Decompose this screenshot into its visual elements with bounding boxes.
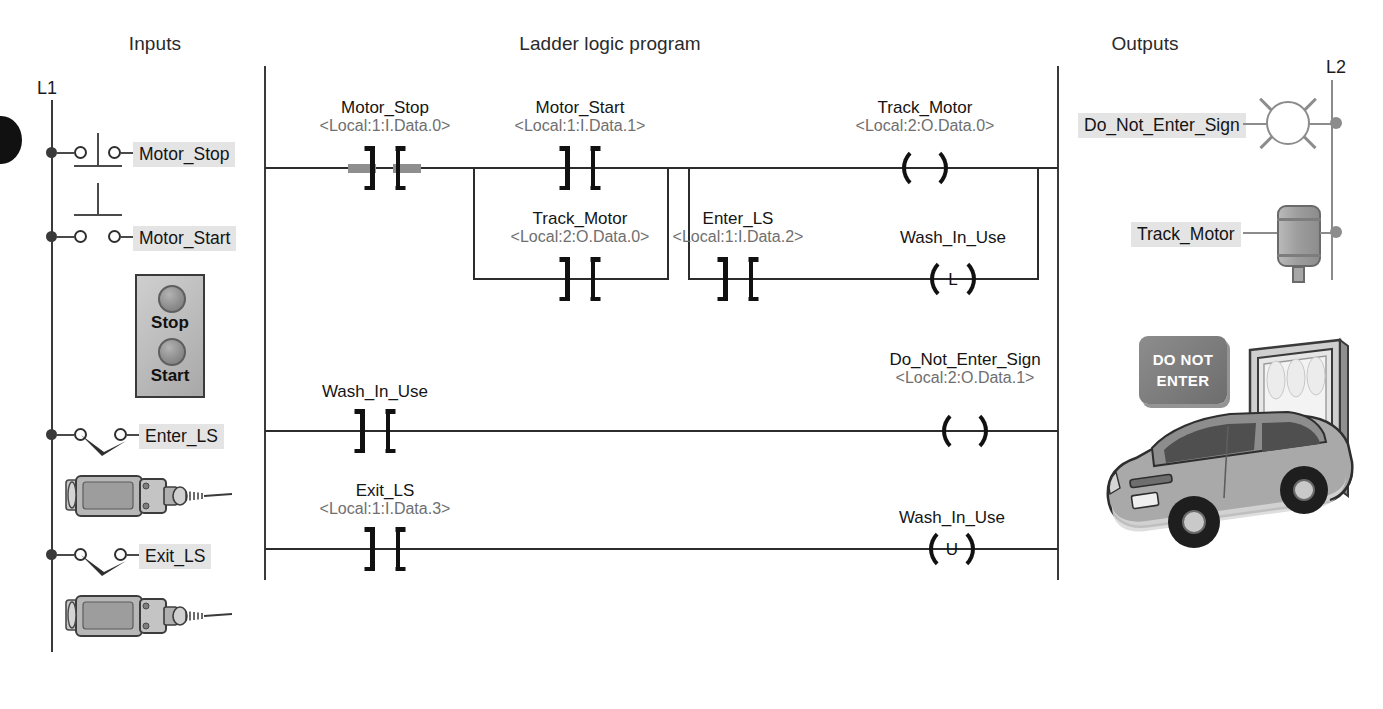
rung1-wash-in-use-contact[interactable]	[360, 409, 390, 453]
motor-shaft	[1292, 266, 1305, 283]
motor-start-lead-right	[121, 236, 133, 238]
outputs-heading: Outputs	[1085, 33, 1205, 55]
input-tag-exit-ls: Exit_LS	[139, 544, 211, 569]
lamp-ray-4	[1303, 136, 1316, 149]
exit-ls-device-photo	[58, 592, 233, 644]
do-not-enter-sign: DO NOT ENTER	[1139, 336, 1227, 404]
l1-rail-label: L1	[37, 78, 57, 99]
contact-bar-left	[360, 409, 365, 453]
coil-arc-right	[925, 145, 948, 191]
ladder-heading: Ladder logic program	[480, 33, 740, 55]
rung0-enter-ls-address: <Local:1:I.Data.2>	[648, 228, 828, 246]
contact-hook-bottom-left	[560, 297, 570, 302]
rung2-exit-ls-contact[interactable]	[370, 527, 400, 571]
start-pushbutton[interactable]	[158, 338, 186, 366]
ladder-logic-figure: Inputs Ladder logic program Outputs L1 M…	[0, 0, 1383, 709]
ladder-right-rail	[1057, 66, 1059, 580]
motor-stop-terminal-left	[74, 146, 87, 159]
branch1-left-leg	[473, 167, 475, 279]
motor-start-lead-left	[56, 236, 74, 238]
rung0-track-motor-coil[interactable]	[902, 145, 948, 191]
contact-hook-bottom-left	[718, 297, 728, 302]
motor-stop-lead-left	[56, 152, 74, 154]
lamp-ray-1	[1259, 98, 1272, 111]
rung0-track-motor-coil-name: Track_Motor	[825, 98, 1025, 118]
enter-ls-device-photo	[58, 472, 233, 524]
exit-ls-lead-left	[56, 554, 74, 556]
branch2-right-leg	[1037, 167, 1039, 279]
lamp-ray-2	[1303, 98, 1316, 111]
coil-glyph: U	[929, 541, 975, 558]
l2-rail-label: L2	[1326, 57, 1346, 78]
contact-bar-right	[396, 146, 401, 190]
rung0-track-motor-branch-name: Track_Motor	[490, 209, 670, 229]
input-tag-motor-start: Motor_Start	[133, 226, 236, 251]
stop-pushbutton[interactable]	[158, 285, 186, 313]
rung2-wash-in-use-unlatch-coil[interactable]: U	[929, 526, 975, 572]
contact-hook-bottom-right	[749, 297, 759, 302]
l2-node-do-not-enter-sign	[1330, 117, 1342, 129]
contact-hook-top-right	[396, 527, 406, 532]
contact-hook-top-right	[396, 146, 406, 151]
enter-ls-actuator-arm	[74, 428, 134, 460]
motor-stop-terminal-right	[108, 146, 121, 159]
motor-start-terminal-right	[108, 230, 121, 243]
rung0-wash-in-use-latch-coil[interactable]: L	[930, 256, 976, 302]
page-edge-marker	[0, 116, 22, 164]
l1-rail	[51, 100, 53, 652]
contact-bar-right	[591, 257, 596, 301]
contact-bar-right	[396, 527, 401, 571]
inputs-heading: Inputs	[95, 33, 215, 55]
input-tag-enter-ls: Enter_LS	[139, 424, 224, 449]
rung0-motor-stop-contact[interactable]	[370, 146, 400, 190]
l2-rail	[1331, 80, 1333, 280]
rung0-track-motor-branch-address: <Local:2:O.Data.0>	[490, 228, 670, 246]
do-not-enter-sign-line2: ENTER	[1139, 372, 1227, 389]
pushbutton-station[interactable]: Stop Start	[135, 274, 205, 398]
contact-hook-bottom-right	[591, 186, 601, 191]
rung1-dne-sign-coil[interactable]	[942, 408, 988, 454]
motor-stop-bridge	[74, 165, 122, 167]
motor-track-motor	[1277, 205, 1321, 267]
rung0-motor-start-name: Motor_Start	[490, 98, 670, 118]
contact-bar-right	[386, 409, 391, 453]
contact-bar-right	[749, 257, 754, 301]
rung2-exit-ls-name: Exit_LS	[295, 481, 475, 501]
contact-hook-top-left	[718, 257, 728, 262]
contact-hook-top-left	[560, 146, 570, 151]
motor-band-bottom	[1277, 254, 1321, 257]
enter-ls-lead-left	[56, 434, 74, 436]
contact-hook-top-left	[355, 409, 365, 414]
rung2-wash-in-use-unlatch-name: Wash_In_Use	[862, 508, 1042, 528]
coil-arc-left	[902, 145, 925, 191]
l2-node-track-motor	[1330, 226, 1342, 238]
ladder-left-rail	[264, 66, 266, 580]
contact-bar-left	[565, 257, 570, 301]
contact-hook-bottom-right	[386, 449, 396, 454]
contact-hook-top-left	[365, 527, 375, 532]
contact-hook-bottom-left	[355, 449, 365, 454]
dne-lamp-lead-left	[1243, 123, 1268, 125]
rung1-wash-in-use-name: Wash_In_Use	[285, 382, 465, 402]
contact-bar-left	[370, 527, 375, 571]
output-tag-do-not-enter-sign: Do_Not_Enter_Sign	[1078, 113, 1246, 138]
rung0-motor-stop-address: <Local:1:I.Data.0>	[295, 117, 475, 135]
contact-hook-top-right	[386, 409, 396, 414]
coil-glyph: L	[930, 271, 976, 288]
stop-pushbutton-label: Stop	[137, 313, 203, 333]
rung1-dne-sign-coil-name: Do_Not_Enter_Sign	[855, 350, 1075, 370]
contact-bar-left	[370, 146, 375, 190]
rung0-track-motor-contact[interactable]	[565, 257, 595, 301]
contact-hook-top-left	[365, 146, 375, 151]
rung0-enter-ls-contact[interactable]	[723, 257, 753, 301]
rung0-wash-in-use-latch-name: Wash_In_Use	[863, 228, 1043, 248]
motor-start-plunger-stem	[97, 183, 99, 215]
motor-start-terminal-left	[74, 230, 87, 243]
contact-hook-bottom-left	[365, 186, 375, 191]
rung0-motor-start-contact[interactable]	[565, 146, 595, 190]
contact-bar-left	[565, 146, 570, 190]
rung0-track-motor-coil-address: <Local:2:O.Data.0>	[825, 117, 1025, 135]
rung2-exit-ls-address: <Local:1:I.Data.3>	[295, 500, 475, 518]
input-tag-motor-stop: Motor_Stop	[133, 142, 235, 167]
coil-arc-left	[942, 408, 965, 454]
